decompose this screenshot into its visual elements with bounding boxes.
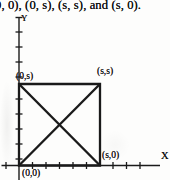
geometry-figure xyxy=(0,0,170,180)
figure-page: 0, 0), (0, s), (s, s), and (s, 0). xyxy=(0,0,170,180)
x-axis-label: X xyxy=(161,151,169,161)
vertex-label-top-left: (0,s) xyxy=(16,71,33,81)
vertex-label-bottom-right: (s,0) xyxy=(102,150,119,160)
y-axis-label: Y xyxy=(21,13,28,23)
vertex-label-origin: (0,0) xyxy=(22,168,40,178)
vertex-label-top-right: (s,s) xyxy=(97,66,113,76)
